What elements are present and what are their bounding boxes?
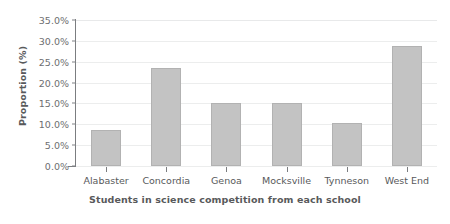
x-tick-label: West End — [367, 175, 447, 186]
bar[interactable] — [332, 123, 362, 166]
bar[interactable] — [211, 103, 241, 166]
x-axis-title: Students in science competition from eac… — [0, 194, 450, 205]
x-tick-mark — [407, 167, 408, 172]
bar-slot — [136, 20, 196, 166]
x-tick-mark — [226, 167, 227, 172]
x-tick-mark — [166, 167, 167, 172]
y-tick-label: 35.0% — [39, 15, 69, 26]
bar-slot — [317, 20, 377, 166]
plot-area: 0.0%5.0%10.0%15.0%20.0%25.0%30.0%35.0% — [76, 20, 437, 166]
x-tick-mark — [347, 167, 348, 172]
y-tick-label: 5.0% — [45, 140, 69, 151]
y-tick-label: 10.0% — [39, 119, 69, 130]
bar[interactable] — [151, 68, 181, 166]
bar-slot — [76, 20, 136, 166]
bar-slot — [257, 20, 317, 166]
bar[interactable] — [272, 103, 302, 166]
bar-chart: Proportion (%) 0.0%5.0%10.0%15.0%20.0%25… — [0, 0, 450, 224]
bar[interactable] — [91, 130, 121, 166]
y-tick-label: 15.0% — [39, 98, 69, 109]
y-tick-label: 30.0% — [39, 35, 69, 46]
y-tick-label: 0.0% — [45, 161, 69, 172]
y-axis-title: Proportion (%) — [14, 4, 32, 168]
gridline — [76, 166, 437, 167]
y-tick-label: 25.0% — [39, 56, 69, 67]
bar[interactable] — [392, 46, 422, 166]
bar-slot — [196, 20, 256, 166]
x-tick-mark — [106, 167, 107, 172]
y-tick-label: 20.0% — [39, 77, 69, 88]
x-tick-mark — [287, 167, 288, 172]
bar-slot — [377, 20, 437, 166]
